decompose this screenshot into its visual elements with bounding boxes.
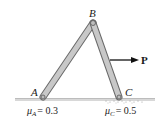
friction-c: μC= 0.5 (104, 105, 136, 118)
pin-c (117, 95, 121, 99)
friction-a: μA= 0.3 (26, 105, 58, 118)
force-label: P (141, 54, 148, 66)
ground (15, 99, 155, 103)
force-p-arrow-icon (110, 57, 139, 63)
label-c: C (125, 86, 133, 98)
label-b: B (89, 7, 96, 19)
label-a: A (30, 86, 38, 98)
member-ab (43, 23, 93, 97)
pin-a (41, 95, 45, 99)
frame-diagram: P A B C μA= 0.3 μC= 0.5 (0, 0, 164, 125)
pin-b (91, 21, 96, 26)
